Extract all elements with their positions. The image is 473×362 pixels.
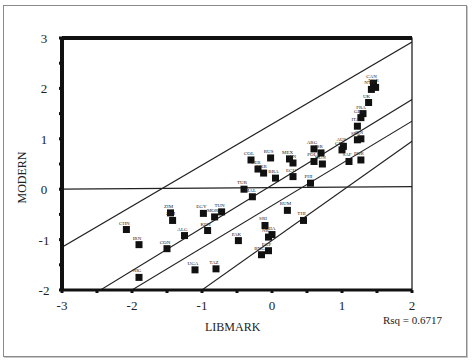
y-tick: [59, 238, 62, 241]
point-label: IRN: [133, 236, 142, 241]
point-label: NTH: [364, 80, 375, 85]
point-label: NIG: [262, 228, 271, 233]
y-tick: [59, 188, 62, 191]
point-label: EGP: [262, 242, 272, 247]
y-tick: [59, 62, 62, 65]
point-label: GRE: [335, 141, 345, 146]
point-label: ALG: [177, 227, 188, 232]
x-tick-label: 1: [339, 298, 346, 313]
point-label: PAK: [232, 232, 242, 237]
x-tick: [201, 290, 204, 293]
x-tick: [306, 290, 309, 293]
data-point: [164, 245, 171, 252]
upper-95-individual-line: [62, 42, 412, 247]
data-point: [300, 217, 307, 224]
x-tick: [166, 290, 169, 293]
reference-zero-line: [62, 187, 412, 190]
x-tick-label: 2: [409, 298, 416, 313]
x-tick-label: 0: [269, 298, 276, 313]
data-point: [290, 159, 297, 166]
point-label: ECU: [286, 168, 296, 173]
x-tick: [376, 290, 379, 293]
point-label: POR: [354, 151, 364, 156]
point-label: UGA: [188, 261, 199, 266]
point-label: ITA: [351, 117, 359, 122]
data-point: [200, 210, 207, 217]
point-label: KEN: [200, 222, 211, 227]
data-point: [365, 99, 372, 106]
data-point: [204, 227, 211, 234]
scatter-plot: -3-2-10123210-1-2CANNORNTHUKFRAGERITAJPN…: [0, 0, 473, 362]
point-label: VEN: [286, 154, 297, 159]
data-point: [123, 226, 130, 233]
data-point: [319, 161, 326, 168]
data-point: [258, 251, 265, 258]
data-point: [368, 86, 375, 93]
point-label: UKR: [256, 164, 267, 169]
data-point: [357, 156, 364, 163]
upper-95-mean-line: [101, 99, 413, 290]
y-tick: [59, 137, 62, 140]
point-label: UK: [363, 94, 371, 99]
data-point: [272, 175, 279, 182]
x-tick: [236, 290, 239, 293]
y-tick-label: 2: [41, 81, 48, 96]
point-label: NIG: [133, 268, 142, 273]
data-point: [267, 154, 274, 161]
point-label: ISR: [315, 144, 323, 149]
x-tick: [271, 290, 274, 293]
data-point: [354, 123, 361, 130]
y-axis-title: MODERN: [15, 148, 30, 208]
x-tick: [96, 290, 99, 293]
data-point: [265, 234, 272, 241]
point-label: BRA: [268, 169, 279, 174]
y-tick-label: 3: [41, 31, 48, 46]
x-tick: [131, 290, 134, 293]
y-tick: [59, 289, 62, 292]
point-label: SRI: [259, 216, 267, 221]
regression-fit-line: [132, 121, 412, 290]
point-label: ZIM: [164, 204, 174, 209]
data-point: [260, 170, 267, 177]
point-label: RUM: [280, 201, 292, 206]
x-axis-title: LIBMARK: [205, 320, 260, 335]
point-label: TUR: [237, 180, 248, 185]
data-point: [265, 247, 272, 254]
data-point: [284, 207, 291, 214]
y-tick: [59, 87, 62, 90]
data-point: [346, 158, 353, 165]
data-point: [136, 274, 143, 281]
point-label: TAZ: [209, 260, 218, 265]
x-tick: [411, 290, 414, 293]
point-label: CHN: [119, 221, 130, 226]
x-tick-label: -3: [57, 298, 68, 313]
data-point: [354, 136, 361, 143]
point-label: SPA: [351, 131, 360, 136]
y-tick-label: -2: [39, 283, 50, 298]
data-point: [181, 232, 188, 239]
point-label: EGY: [196, 204, 207, 209]
data-point: [307, 180, 314, 187]
point-label: THI: [297, 211, 306, 216]
y-tick-label: 1: [41, 132, 48, 147]
rsq-annotation: Rsq = 0.6717: [383, 314, 442, 326]
data-point: [249, 193, 256, 200]
point-label: MAL: [245, 188, 256, 193]
plot-border: [62, 38, 412, 290]
point-label: MOR: [207, 208, 219, 213]
x-tick-label: -2: [127, 298, 138, 313]
point-label: PHI: [304, 174, 312, 179]
x-tick: [341, 290, 344, 293]
point-label: ZIM: [166, 211, 176, 216]
data-point: [211, 213, 218, 220]
y-tick-label: 0: [41, 182, 48, 197]
y-tick: [59, 112, 62, 115]
data-point: [290, 173, 297, 180]
data-point: [169, 217, 176, 224]
y-tick-label: -1: [39, 233, 50, 248]
x-tick-label: -1: [197, 298, 208, 313]
data-point: [136, 241, 143, 248]
point-label: COL: [244, 151, 254, 156]
point-label: CON: [160, 240, 171, 245]
y-tick: [59, 163, 62, 166]
